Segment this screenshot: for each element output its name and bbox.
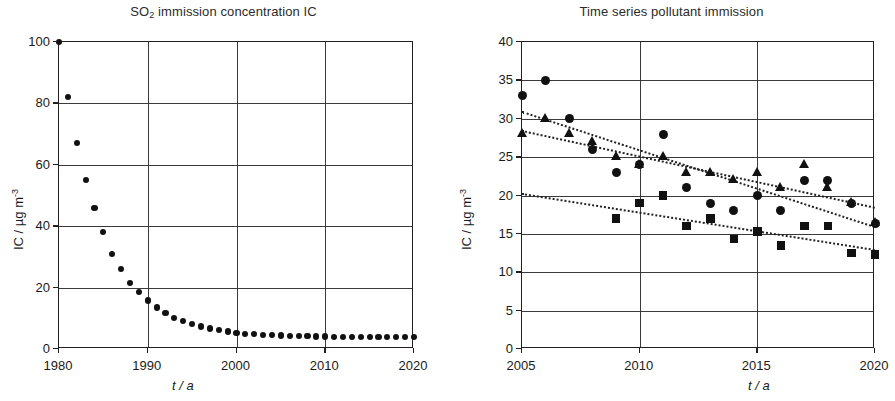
gridline-horizontal [522,272,873,273]
data-point-nox [658,151,668,160]
data-point-so2 [145,297,151,303]
data-point-nox [611,151,621,160]
gridline-horizontal [522,311,873,312]
data-point-pm25 [753,227,762,236]
data-point-so2 [313,333,319,339]
data-point-pm25 [730,235,739,244]
data-point-so2 [189,321,195,327]
y-axis-tick [53,287,58,288]
y-axis-tick-label: 40 [473,34,513,49]
y-axis-tick [516,118,521,119]
x-axis-tick [756,348,757,353]
x-axis-tick-label: 2010 [310,358,339,373]
plot-area-right [521,41,874,348]
data-point-pm10 [847,199,856,208]
data-point-pm25 [706,214,715,223]
y-axis-tick [516,233,521,234]
data-point-so2 [180,318,186,324]
data-point-nox [728,174,738,183]
data-point-so2 [65,94,71,100]
x-axis-tick-label: 1990 [132,358,161,373]
data-point-nox [587,136,597,145]
gridline-horizontal [59,165,412,166]
data-point-so2 [296,333,302,339]
data-point-so2 [331,334,337,340]
data-point-so2 [136,289,142,295]
pollutant-timeseries-panel: Time series pollutant immission IC / µg … [448,0,895,401]
gridline-horizontal [522,157,873,158]
data-point-nox [775,182,785,191]
data-point-so2 [269,332,275,338]
data-point-so2 [162,310,168,316]
data-point-pm25 [800,222,809,231]
data-point-pm10 [588,145,597,154]
data-point-so2 [411,334,417,340]
data-point-so2 [83,177,89,183]
chart-title-left-main: SO [130,4,149,19]
y-axis-tick [516,41,521,42]
data-point-so2 [375,334,381,340]
data-point-so2 [393,334,399,340]
data-point-nox [752,167,762,176]
chart-title-left-rest: immission concentration IC [154,4,316,19]
y-axis-tick [53,102,58,103]
gridline-horizontal [59,226,412,227]
data-point-so2 [118,266,124,272]
gridline-vertical [237,42,238,347]
trend-line-pm10 [522,111,876,228]
y-axis-tick-label: 20 [473,187,513,202]
so2-chart-panel: SO2 immission concentration IC IC / µg m… [0,0,447,401]
y-axis-tick-label: 0 [473,341,513,356]
data-point-so2 [340,334,346,340]
data-point-pm10 [800,176,809,185]
data-point-pm10 [753,191,762,200]
x-axis-tick-label: 2020 [399,358,428,373]
y-axis-tick-label: 15 [473,225,513,240]
data-point-so2 [242,331,248,337]
x-axis-title-right-text: t / a [748,378,770,393]
data-point-pm25 [847,249,856,258]
data-point-so2 [251,331,257,337]
gridline-vertical [325,42,326,347]
x-axis-tick [236,348,237,353]
data-point-so2 [233,330,239,336]
y-axis-tick-label: 5 [473,302,513,317]
x-axis-tick-label: 2000 [221,358,250,373]
data-point-so2 [91,205,97,211]
data-point-pm25 [612,214,621,223]
y-axis-tick-label: 25 [473,149,513,164]
data-point-nox [799,159,809,168]
data-point-so2 [154,304,160,310]
gridline-vertical [640,42,641,347]
data-point-so2 [74,140,80,146]
plot-area-left [58,41,413,348]
y-axis-tick-label: 60 [10,156,50,171]
y-axis-tick [53,164,58,165]
data-point-pm25 [659,191,668,200]
y-axis-title-right-text: IC / µg m [459,197,474,250]
data-point-so2 [109,251,115,257]
data-point-pm25 [824,222,833,231]
data-point-pm10 [518,91,527,100]
data-point-pm10 [682,183,691,192]
x-axis-tick-label: 2020 [860,358,889,373]
data-point-pm25 [871,250,880,259]
data-point-so2 [287,333,293,339]
x-axis-title-left-text: t / a [172,378,194,393]
data-point-so2 [225,328,231,334]
data-point-so2 [216,327,222,333]
data-point-nox [564,128,574,137]
data-point-pm10 [706,199,715,208]
gridline-horizontal [522,80,873,81]
data-point-nox [540,113,550,122]
data-point-so2 [278,332,284,338]
gridline-horizontal [522,234,873,235]
x-axis-tick [521,348,522,353]
y-axis-tick [53,225,58,226]
y-axis-tick [516,310,521,311]
y-axis-tick [516,195,521,196]
data-point-pm25 [777,241,786,250]
data-point-pm25 [682,222,691,231]
data-point-so2 [127,280,133,286]
data-point-nox [705,167,715,176]
